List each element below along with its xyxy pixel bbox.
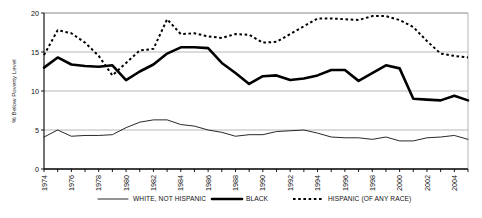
x-tick-label-1976: 1976	[67, 175, 76, 191]
y-axis-title-text: % Below Poverty Level	[10, 59, 17, 122]
x-tick-label-2002: 2002	[423, 175, 432, 191]
y-tick-label-15: 15	[31, 48, 39, 57]
y-tick-label-10: 10	[31, 87, 39, 96]
y-tick-label-20: 20	[31, 9, 39, 18]
x-axis-ticks: 1974197619781980198219841986198819901992…	[40, 169, 468, 191]
x-tick-label-1990: 1990	[258, 175, 267, 191]
x-tick-label-1998: 1998	[368, 175, 377, 191]
legend-item-1: BLACK	[212, 195, 269, 202]
y-tick-label-0: 0	[35, 165, 39, 174]
y-axis-title: % Below Poverty Level	[10, 59, 17, 122]
x-tick-label-1988: 1988	[231, 175, 240, 191]
x-tick-label-1984: 1984	[176, 175, 185, 191]
legend-label-1: BLACK	[246, 195, 269, 202]
legend-label-0: WHITE, NOT HISPANIC	[133, 195, 206, 202]
x-tick-label-2004: 2004	[450, 175, 459, 191]
x-tick-label-1986: 1986	[204, 175, 213, 191]
x-tick-label-1978: 1978	[94, 175, 103, 191]
x-tick-label-1974: 1974	[40, 175, 49, 191]
x-tick-label-1992: 1992	[286, 175, 295, 191]
y-axis-ticks: 05101520	[31, 9, 44, 174]
x-tick-label-1980: 1980	[122, 175, 131, 191]
chart-legend: WHITE, NOT HISPANICBLACKHISPANIC (OF ANY…	[98, 195, 411, 203]
x-tick-label-2000: 2000	[395, 175, 404, 191]
poverty-level-line-chart: 05101520 1974197619781980198219841986198…	[0, 0, 482, 218]
x-tick-label-1982: 1982	[149, 175, 158, 191]
y-tick-label-5: 5	[35, 126, 39, 135]
legend-item-0: WHITE, NOT HISPANIC	[98, 195, 206, 202]
x-tick-label-1994: 1994	[313, 175, 322, 191]
legend-item-2: HISPANIC (OF ANY RACE)	[293, 195, 411, 203]
legend-label-2: HISPANIC (OF ANY RACE)	[328, 195, 411, 203]
chart-canvas: 05101520 1974197619781980198219841986198…	[0, 0, 482, 218]
x-tick-label-1996: 1996	[341, 175, 350, 191]
